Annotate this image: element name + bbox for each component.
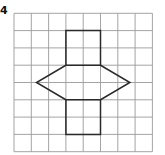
grid-lines (14, 13, 152, 151)
grid-diagram (0, 0, 165, 155)
